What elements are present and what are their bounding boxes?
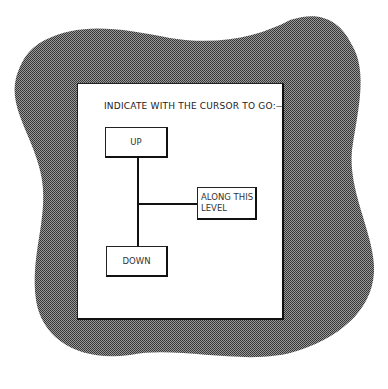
- option-down-box[interactable]: DOWN: [106, 246, 168, 277]
- prompt-text: INDICATE WITH THE CURSOR TO GO:—: [104, 101, 285, 111]
- vertical-connector: [137, 158, 139, 246]
- horizontal-connector: [137, 203, 197, 205]
- option-along-label-line1: ALONG THIS: [201, 192, 253, 203]
- option-up-label: UP: [130, 137, 141, 147]
- option-along-this-level-box[interactable]: ALONG THIS LEVEL: [197, 187, 257, 220]
- option-up-box[interactable]: UP: [105, 127, 168, 158]
- diagram-stage: INDICATE WITH THE CURSOR TO GO:— UP ALON…: [0, 0, 388, 389]
- option-along-label-line2: LEVEL: [201, 203, 227, 214]
- option-down-label: DOWN: [123, 256, 151, 266]
